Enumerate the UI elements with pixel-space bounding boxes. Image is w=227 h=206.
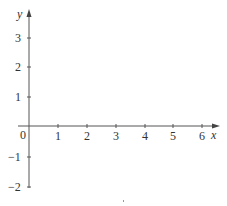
y-tick-label: −1: [8, 150, 21, 164]
x-tick-label: 4: [142, 129, 148, 143]
origin-label: 0: [20, 128, 26, 142]
y-axis-arrow-icon: [27, 9, 32, 17]
x-tick-label: 3: [113, 129, 119, 143]
coordinate-plane: y x 3 2 1 −1 −2 0 1 2 3 4 5 6: [0, 0, 227, 206]
x-tick-label: 6: [199, 129, 205, 143]
x-axis-label: x: [210, 128, 217, 142]
x-tick-label: 1: [55, 129, 61, 143]
y-tick-label: 1: [15, 90, 21, 104]
y-axis-label: y: [16, 7, 23, 21]
x-tick-label: 5: [170, 129, 176, 143]
speck: [123, 200, 124, 202]
y-tick-label: 3: [15, 31, 21, 45]
y-tick-label: −2: [8, 180, 21, 194]
x-tick-label: 2: [84, 129, 90, 143]
y-tick-label: 2: [15, 60, 21, 74]
